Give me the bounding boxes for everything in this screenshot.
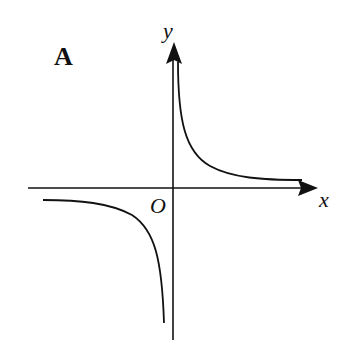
panel-label: A [54,42,73,71]
y-axis-arrow-icon [166,42,182,64]
curve-third-quadrant [43,200,164,323]
origin-label: O [150,193,166,218]
x-axis-arrow-icon [298,180,318,196]
y-axis-label: y [161,18,173,43]
curve-first-quadrant [178,62,302,180]
x-axis-label: x [318,187,329,212]
hyperbola-graph: A x y O [0,0,353,363]
